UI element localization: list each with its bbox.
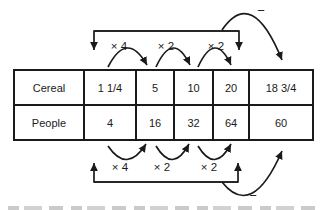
row-label-cereal: Cereal xyxy=(14,70,84,105)
top-subtract-arc xyxy=(222,14,282,60)
bottom-op-label-1: × 4 xyxy=(112,161,129,173)
bottom-multiply-arc-3 xyxy=(198,144,231,160)
people-value-2: 16 xyxy=(136,105,174,140)
people-value-5: 60 xyxy=(249,105,313,140)
top-op-label-3: × 2 xyxy=(208,40,224,52)
people-value-1: 4 xyxy=(84,105,136,140)
table-row-people: People 4 16 32 64 60 xyxy=(14,105,313,140)
cereal-value-3: 10 xyxy=(174,70,213,105)
top-minus-sign: − xyxy=(257,3,265,18)
cereal-value-2: 5 xyxy=(136,70,174,105)
top-op-label-2: × 2 xyxy=(158,40,174,52)
cropped-caption-fragment xyxy=(8,206,318,210)
bottom-op-label-2: × 2 xyxy=(154,161,170,173)
table-row-cereal: Cereal 1 1/4 5 10 20 18 3/4 xyxy=(14,70,313,105)
bottom-minus-sign: − xyxy=(249,188,257,203)
bottom-multiply-arc-2 xyxy=(156,144,189,160)
cereal-value-1: 1 1/4 xyxy=(84,70,136,105)
cereal-value-4: 20 xyxy=(213,70,249,105)
people-value-3: 32 xyxy=(174,105,213,140)
bottom-multiply-arc-1 xyxy=(108,144,146,160)
ratio-table: Cereal 1 1/4 5 10 20 18 3/4 People 4 16 … xyxy=(13,69,314,141)
top-op-label-1: × 4 xyxy=(111,40,128,52)
cereal-value-5: 18 3/4 xyxy=(249,70,313,105)
bottom-op-label-3: × 2 xyxy=(201,161,217,173)
people-value-4: 64 xyxy=(213,105,249,140)
ratio-table-figure: × 4 × 2 × 2 − × 4 × 2 × 2 − Cereal xyxy=(0,0,326,210)
row-label-people: People xyxy=(14,105,84,140)
